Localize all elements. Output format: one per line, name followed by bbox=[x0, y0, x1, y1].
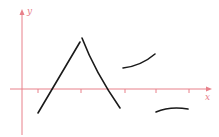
x-axis-ticks bbox=[38, 89, 189, 93]
rising-segment bbox=[38, 42, 80, 113]
x-axis-arrow-icon bbox=[206, 87, 212, 92]
lower-right-arc bbox=[156, 108, 188, 112]
y-axis-label: y bbox=[27, 6, 32, 16]
falling-segment bbox=[82, 38, 120, 108]
y-axis-arrow-icon bbox=[20, 9, 25, 15]
x-axis bbox=[10, 87, 212, 92]
function-graph bbox=[0, 0, 219, 137]
x-axis-label: x bbox=[205, 92, 210, 102]
y-axis bbox=[20, 9, 25, 135]
upper-right-arc bbox=[123, 54, 155, 68]
